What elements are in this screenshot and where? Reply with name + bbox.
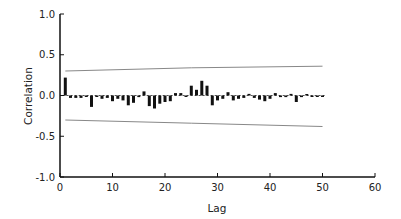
y-tick-label: 0.5 bbox=[39, 49, 55, 60]
bar-lag-46 bbox=[300, 96, 303, 98]
bar-lag-29 bbox=[211, 96, 214, 106]
x-tick-label: 40 bbox=[264, 182, 277, 193]
bar-lag-25 bbox=[190, 86, 193, 96]
bar-lag-6 bbox=[90, 96, 93, 107]
bar-lag-4 bbox=[80, 96, 83, 98]
bar-lag-15 bbox=[137, 96, 140, 98]
bar-lag-47 bbox=[305, 94, 308, 96]
bar-lag-3 bbox=[74, 96, 77, 98]
bar-lag-38 bbox=[258, 96, 261, 100]
x-tick-label: 0 bbox=[57, 182, 63, 193]
bar-lag-10 bbox=[111, 96, 114, 102]
x-tick-label: 60 bbox=[369, 182, 382, 193]
bar-lag-18 bbox=[153, 96, 156, 109]
bar-lag-21 bbox=[169, 96, 172, 102]
bar-lag-5 bbox=[85, 96, 88, 98]
bar-lag-7 bbox=[95, 96, 98, 98]
bar-lag-2 bbox=[69, 96, 72, 98]
bar-lag-35 bbox=[242, 96, 245, 98]
bar-lag-45 bbox=[295, 96, 298, 103]
bar-lag-26 bbox=[195, 90, 198, 96]
bar-lag-8 bbox=[101, 96, 104, 99]
acf-chart: -1.0-0.50.00.51.00102030405060 Lag Corre… bbox=[0, 0, 401, 219]
y-tick-label: -0.5 bbox=[35, 131, 55, 142]
confidence-band-upper bbox=[65, 66, 322, 71]
bar-lag-40 bbox=[269, 96, 272, 99]
bar-lag-12 bbox=[122, 96, 125, 101]
bar-lag-17 bbox=[148, 96, 151, 107]
bar-lag-13 bbox=[127, 96, 130, 106]
bar-lag-43 bbox=[284, 96, 287, 98]
bar-lag-30 bbox=[216, 96, 219, 101]
bar-lag-14 bbox=[132, 96, 135, 103]
bar-lag-49 bbox=[316, 96, 319, 98]
bar-lag-48 bbox=[311, 96, 314, 98]
bar-lag-50 bbox=[321, 96, 324, 98]
bar-lag-11 bbox=[116, 96, 119, 99]
bar-lag-22 bbox=[174, 93, 177, 95]
bar-lag-19 bbox=[158, 96, 161, 104]
x-tick-label: 30 bbox=[211, 182, 224, 193]
bar-lag-39 bbox=[263, 96, 266, 102]
bar-lag-1 bbox=[64, 78, 67, 96]
correlation-bars bbox=[64, 78, 324, 109]
y-axis-title: Correlation bbox=[22, 67, 34, 125]
bar-lag-20 bbox=[164, 96, 167, 103]
axes: -1.0-0.50.00.51.00102030405060 bbox=[35, 9, 381, 194]
y-tick-label: -1.0 bbox=[35, 172, 55, 183]
bar-lag-16 bbox=[143, 91, 146, 95]
confidence-band-lower bbox=[65, 120, 322, 127]
bar-lag-34 bbox=[237, 96, 240, 99]
bar-lag-9 bbox=[106, 96, 109, 98]
bar-lag-33 bbox=[232, 96, 235, 101]
x-tick-label: 50 bbox=[316, 182, 329, 193]
bar-lag-28 bbox=[206, 86, 209, 96]
y-tick-label: 0.0 bbox=[39, 90, 55, 101]
bar-lag-32 bbox=[227, 92, 230, 95]
bar-lag-31 bbox=[221, 96, 224, 99]
bar-lag-37 bbox=[253, 96, 256, 98]
bar-lag-41 bbox=[274, 93, 277, 95]
bar-lag-44 bbox=[290, 94, 293, 96]
bar-lag-36 bbox=[248, 94, 251, 96]
bar-lag-27 bbox=[200, 81, 203, 96]
bar-lag-23 bbox=[179, 93, 182, 95]
x-tick-label: 10 bbox=[106, 182, 119, 193]
confidence-band-lines bbox=[65, 66, 322, 126]
bar-lag-24 bbox=[185, 96, 188, 98]
x-axis-title: Lag bbox=[208, 202, 227, 214]
x-tick-label: 20 bbox=[159, 182, 172, 193]
bar-lag-42 bbox=[279, 96, 282, 98]
y-tick-label: 1.0 bbox=[39, 9, 55, 20]
